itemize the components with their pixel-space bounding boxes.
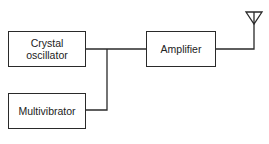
wire-amplifier-to-antenna [215,22,254,49]
antenna-icon [246,12,262,24]
block-label: Amplifier [161,43,202,55]
wire-multivibrator-to-amplifier [85,49,107,110]
block-label: Multivibrator [18,105,75,117]
crystal-oscillator-block: Crystal oscillator [8,31,86,67]
block-label: Crystal [26,37,67,49]
multivibrator-block: Multivibrator [8,93,86,129]
block-label: oscillator [26,49,67,61]
amplifier-block: Amplifier [146,31,216,67]
